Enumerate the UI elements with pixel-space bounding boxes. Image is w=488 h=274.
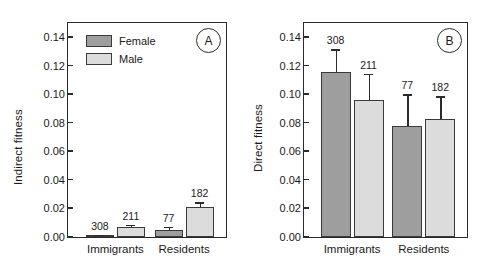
y-tick-mark — [303, 179, 309, 180]
bar-male-residents — [186, 207, 214, 237]
y-tick-mark — [67, 150, 73, 151]
y-tick-label: 0.10 — [44, 89, 65, 100]
y-tick-label: 0.06 — [44, 146, 65, 157]
y-tick-label: 0.14 — [44, 32, 65, 43]
error-bar-cap — [195, 202, 204, 203]
bar-male-immigrants — [354, 100, 384, 237]
figure-root: Indirect fitness 0.14 0.12 0.10 0.08 0.0… — [0, 0, 488, 274]
panel-a-y-axis-label: Indirect fitness — [12, 109, 24, 185]
sample-size-label: 182 — [191, 187, 209, 199]
y-tick-mark — [67, 207, 73, 208]
y-tick-label: 0.12 — [44, 60, 65, 71]
error-bar-cap — [164, 227, 173, 228]
panel-b-y-tick-labels: 0.14 0.12 0.10 0.08 0.06 0.04 0.02 0.00 — [261, 22, 301, 238]
y-tick-label: 0.02 — [280, 203, 301, 214]
y-tick-mark — [303, 207, 309, 208]
x-axis-label-residents: Residents — [159, 243, 210, 255]
y-tick-mark — [303, 36, 309, 37]
x-axis-label-immigrants: Immigrants — [87, 243, 144, 255]
sample-size-label: 211 — [123, 210, 140, 222]
panel-a-y-tick-labels: 0.14 0.12 0.10 0.08 0.06 0.04 0.02 0.00 — [25, 22, 65, 238]
error-bar — [440, 96, 441, 118]
sample-size-label: 77 — [163, 212, 175, 224]
y-tick-mark — [67, 236, 73, 237]
y-tick-mark — [67, 122, 73, 123]
bar-female-residents — [155, 230, 183, 237]
y-tick-label: 0.14 — [280, 32, 301, 43]
y-tick-label: 0.02 — [44, 203, 65, 214]
y-tick-mark — [67, 65, 73, 66]
bar-male-immigrants — [117, 227, 145, 237]
sample-size-label: 182 — [432, 81, 450, 93]
y-tick-mark — [67, 93, 73, 94]
y-tick-label: 0.04 — [280, 174, 301, 185]
y-tick-mark — [303, 65, 309, 66]
y-tick-label: 0.08 — [44, 117, 65, 128]
panel-a-bars-area: 30821177182 — [68, 23, 226, 237]
y-tick-label: 0.10 — [280, 89, 301, 100]
x-axis-label-immigrants: Immigrants — [324, 243, 381, 255]
bar-male-residents — [425, 119, 455, 237]
y-tick-label: 0.04 — [44, 174, 65, 185]
x-axis-label-residents: Residents — [398, 243, 449, 255]
y-tick-label: 0.12 — [280, 60, 301, 71]
panel-b-bars-area: 30821177182 — [304, 23, 467, 237]
bar-female-residents — [392, 126, 422, 237]
y-tick-label: 0.08 — [280, 117, 301, 128]
bar-female-immigrants — [321, 72, 351, 237]
error-bar-cap — [436, 96, 445, 97]
error-bar-cap — [95, 235, 104, 236]
error-bar-cap — [331, 49, 340, 50]
y-tick-mark — [67, 179, 73, 180]
y-tick-mark — [303, 236, 309, 237]
sample-size-label: 308 — [91, 220, 109, 232]
y-tick-label: 0.00 — [44, 232, 65, 243]
y-tick-mark — [303, 93, 309, 94]
error-bar-cap — [403, 94, 412, 95]
error-bar — [369, 74, 370, 100]
y-tick-mark — [303, 150, 309, 151]
sample-size-label: 308 — [327, 34, 345, 46]
y-tick-mark — [67, 36, 73, 37]
panel-b: Direct fitness 0.14 0.12 0.10 0.08 0.06 … — [244, 0, 488, 274]
error-bar — [336, 49, 337, 71]
y-tick-label: 0.00 — [280, 232, 301, 243]
sample-size-label: 77 — [401, 79, 413, 91]
error-bar — [407, 94, 408, 126]
error-bar-cap — [126, 225, 135, 226]
y-tick-mark — [303, 122, 309, 123]
y-tick-label: 0.06 — [280, 146, 301, 157]
panel-a: Indirect fitness 0.14 0.12 0.10 0.08 0.0… — [0, 0, 244, 274]
sample-size-label: 211 — [360, 59, 377, 71]
error-bar-cap — [364, 74, 373, 75]
